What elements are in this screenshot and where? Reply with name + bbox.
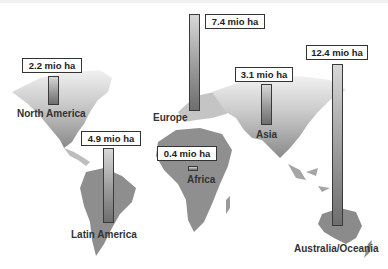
value-label-north-america: 2.2 mio ha bbox=[22, 58, 82, 73]
bar-latin-america bbox=[103, 148, 114, 223]
value-label-europe: 7.4 mio ha bbox=[205, 14, 265, 29]
value-label-latin-america: 4.9 mio ha bbox=[81, 131, 141, 146]
value-label-asia: 3.1 mio ha bbox=[235, 67, 293, 82]
region-label-africa: Africa bbox=[187, 174, 215, 185]
asia-shape bbox=[212, 76, 346, 158]
bar-australia-oceania bbox=[332, 64, 343, 226]
bar-asia bbox=[261, 84, 272, 125]
region-label-north-america: North America bbox=[17, 108, 86, 119]
region-label-australia-oceania: Australia/Oceania bbox=[294, 243, 378, 254]
bar-europe bbox=[189, 14, 200, 111]
region-label-latin-america: Latin America bbox=[71, 229, 137, 240]
region-label-europe: Europe bbox=[153, 112, 187, 123]
bar-north-america bbox=[48, 76, 59, 105]
value-label-australia-oceania: 12.4 mio ha bbox=[306, 45, 368, 60]
region-label-asia: Asia bbox=[256, 129, 277, 140]
se-asia-islands-shape bbox=[288, 164, 330, 192]
bar-africa bbox=[188, 166, 198, 171]
central-america-shape bbox=[64, 148, 90, 166]
madagascar-shape bbox=[226, 196, 230, 214]
value-label-africa: 0.4 mio ha bbox=[157, 146, 217, 161]
